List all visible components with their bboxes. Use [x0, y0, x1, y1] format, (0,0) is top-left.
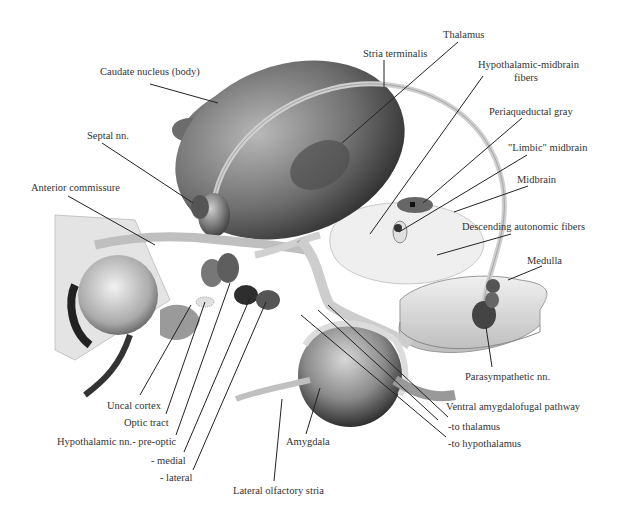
label-limbic-midbrain: "Limbic" midbrain — [508, 142, 587, 154]
lateral-olfactory-stria — [236, 380, 310, 399]
label-optic-tract: Optic tract — [124, 417, 169, 429]
label-hypothalamic-nn-preoptic: Hypothalamic nn.- pre-optic — [57, 436, 176, 448]
label-caudate-nucleus: Caudate nucleus (body) — [100, 66, 200, 78]
label-ventral-amygdalofugal-pathway: Ventral amygdalofugal pathway — [446, 401, 580, 413]
label-hypothalamic-midbrain-fibers: Hypothalamic-midbrain — [478, 59, 579, 71]
label-amygdala: Amygdala — [286, 436, 330, 448]
label-lateral-olfactory-stria: Lateral olfactory stria — [233, 485, 324, 497]
label-medulla: Medulla — [527, 255, 562, 267]
label-midbrain: Midbrain — [517, 174, 556, 186]
label-hypothalamic-midbrain-fibers-line2: fibers — [514, 72, 538, 84]
label-uncal-cortex: Uncal cortex — [107, 400, 161, 412]
label-to-thalamus: -to thalamus — [448, 421, 500, 433]
label-septal-nn: Septal nn. — [87, 130, 129, 142]
label-to-hypothalamus: -to hypothalamus — [448, 438, 521, 450]
label-thalamus: Thalamus — [443, 29, 484, 41]
limbic-midbrain — [393, 221, 407, 243]
label-parasympathetic-nn: Parasympathetic nn. — [465, 371, 550, 383]
label-medial: - medial — [151, 455, 186, 467]
uncal-cortex — [160, 297, 214, 340]
midbrain-slab — [330, 203, 484, 284]
label-stria-terminalis: Stria terminalis — [363, 48, 427, 60]
label-anterior-commissure: Anterior commissure — [31, 182, 120, 194]
septal-nuclei — [191, 193, 230, 237]
label-periaqueductal-gray: Periaqueductal gray — [489, 106, 573, 118]
label-descending-autonomic-fibers: Descending autonomic fibers — [462, 221, 585, 233]
label-lateral: - lateral — [160, 472, 192, 484]
